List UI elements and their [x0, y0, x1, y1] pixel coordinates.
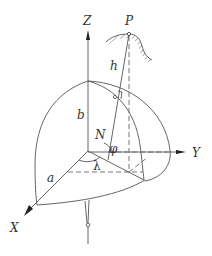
height-label: h	[110, 59, 118, 73]
x-axis-label: X	[9, 221, 19, 235]
longitude-label: λ	[93, 159, 101, 173]
y-axis-label: Y	[192, 146, 201, 160]
z-axis	[86, 30, 90, 151]
z-axis-label: Z	[82, 14, 92, 28]
bottom-stem	[85, 200, 90, 244]
x-axis	[24, 151, 88, 216]
semi-minor-label: b	[77, 108, 85, 122]
projection-dash-diagonal	[129, 157, 148, 172]
point-p-marker	[127, 32, 130, 35]
point-p-label: P	[124, 14, 134, 28]
latitude-label: φ	[109, 142, 118, 156]
semi-major-label: a	[47, 171, 54, 185]
ellipsoid-outline	[35, 81, 170, 205]
normal-label: N	[94, 128, 106, 142]
ellipsoid-diagram: Z Y X P	[0, 0, 212, 256]
